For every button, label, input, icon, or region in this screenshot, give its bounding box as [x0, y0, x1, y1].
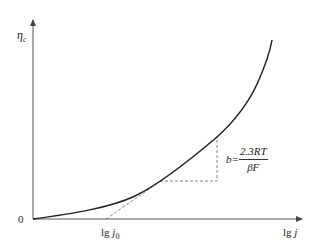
- slope-denominator: βF: [239, 162, 268, 173]
- slope-numerator: 2.3RT: [239, 146, 268, 157]
- diagram-graphics: [0, 0, 322, 249]
- polarization-curve: [33, 40, 272, 219]
- slope-lhs: b=: [226, 154, 239, 165]
- slope-fraction: 2.3RT βF: [239, 146, 268, 173]
- y-axis-label: ηc: [17, 29, 27, 44]
- x-axis-label-prefix: lg: [283, 226, 292, 238]
- x-marker-sub: 0: [115, 232, 119, 241]
- slope-annotation: b= 2.3RT βF: [226, 146, 268, 173]
- y-axis-label-sub: c: [23, 35, 27, 44]
- x-marker-label: lg j0: [101, 227, 119, 241]
- fraction-bar: [239, 159, 268, 160]
- origin-label: 0: [18, 214, 24, 225]
- x-axis-label-var: j: [294, 226, 297, 238]
- tafel-diagram: ηc 0 lg j0 lg j b= 2.3RT βF: [0, 0, 322, 249]
- slope-triangle: [160, 136, 217, 181]
- x-marker-prefix: lg: [101, 226, 110, 238]
- x-axis-label: lg j: [283, 227, 297, 238]
